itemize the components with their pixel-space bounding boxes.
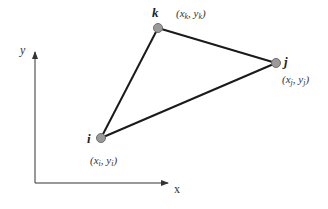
triangle-element-diagram: y x i (xi, yi) k (xk, yk) j (xj, yj) bbox=[0, 0, 328, 209]
node-k: k (xk, yk) bbox=[152, 5, 206, 33]
node-k-coordinates: (xk, yk) bbox=[176, 7, 206, 21]
x-axis-label: x bbox=[174, 182, 180, 196]
edge-j-i bbox=[101, 63, 276, 138]
node-i-coordinates: (xi, yi) bbox=[90, 154, 117, 168]
node-j-label: j bbox=[282, 54, 288, 69]
node-k-marker bbox=[154, 24, 163, 33]
node-i-label: i bbox=[87, 131, 91, 146]
edge-i-k bbox=[101, 28, 158, 138]
triangle-edges bbox=[101, 28, 276, 138]
y-axis-label: y bbox=[19, 43, 26, 57]
node-i-marker bbox=[97, 134, 106, 143]
edge-k-j bbox=[158, 28, 276, 63]
node-j-marker bbox=[272, 59, 281, 68]
coordinate-axes: y x bbox=[19, 43, 180, 196]
node-j-coordinates: (xj, yj) bbox=[282, 73, 309, 87]
node-j: j (xj, yj) bbox=[272, 54, 310, 87]
node-k-label: k bbox=[152, 5, 159, 20]
node-i: i (xi, yi) bbox=[87, 131, 117, 168]
